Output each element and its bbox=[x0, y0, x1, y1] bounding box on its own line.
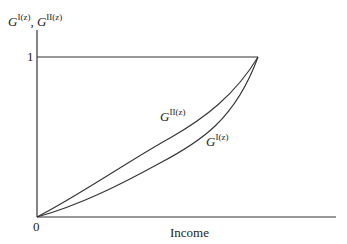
origin-label: 0 bbox=[33, 219, 40, 235]
gi-base: G bbox=[206, 134, 215, 149]
gii-sup: II(z) bbox=[169, 107, 185, 117]
gi-sup: I(z) bbox=[215, 132, 228, 142]
y-title-g2: G bbox=[37, 14, 46, 29]
y-axis-title: GI(z), GII(z) bbox=[8, 12, 62, 30]
curve-label-gi: GI(z) bbox=[206, 132, 228, 150]
y-tick-one: 1 bbox=[27, 49, 34, 65]
curve-label-gii: GII(z) bbox=[160, 107, 185, 125]
y-title-sup1: I(z) bbox=[17, 12, 30, 22]
y-title-g1: G bbox=[8, 14, 17, 29]
y-title-sup2: II(z) bbox=[46, 12, 62, 22]
x-axis-title: Income bbox=[170, 225, 209, 241]
gii-base: G bbox=[160, 109, 169, 124]
